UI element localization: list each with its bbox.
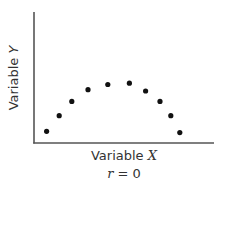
data-point	[143, 88, 148, 93]
data-point	[85, 87, 90, 92]
correlation-annotation: r = 0	[0, 166, 229, 181]
data-point	[127, 81, 132, 86]
data-point	[69, 99, 74, 104]
x-axis-label: Variable X	[0, 148, 229, 163]
data-point	[157, 99, 162, 104]
data-point	[168, 113, 173, 118]
data-point	[105, 82, 110, 87]
data-points	[44, 81, 182, 136]
data-point	[44, 129, 49, 134]
data-point	[177, 130, 182, 135]
data-point	[57, 113, 62, 118]
y-axis-label: Variable Y	[6, 46, 21, 111]
